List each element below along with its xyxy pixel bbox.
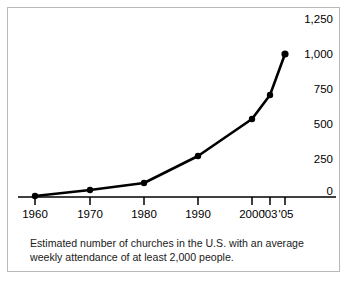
data-point-2003 bbox=[267, 92, 273, 98]
data-point-1970 bbox=[87, 187, 93, 193]
y-tick-label-0: 0 bbox=[289, 186, 333, 198]
x-tick-label-1990: 1990 bbox=[174, 209, 222, 221]
data-point-2000 bbox=[249, 116, 255, 122]
data-point-2005 bbox=[281, 50, 288, 57]
y-tick-label-750: 750 bbox=[289, 84, 333, 96]
data-point-markers bbox=[32, 50, 289, 199]
data-point-1960 bbox=[32, 193, 38, 199]
data-point-1980 bbox=[141, 180, 147, 186]
chart-caption: Estimated number of churches in the U.S.… bbox=[30, 236, 330, 264]
x-tick-label-2005: '05 bbox=[274, 209, 298, 221]
data-point-1990 bbox=[195, 153, 201, 159]
y-tick-label-1250: 1,250 bbox=[289, 14, 333, 26]
data-series-line bbox=[35, 54, 285, 196]
chart-figure: 1,250 1,000 750 500 250 0 1960 1970 1980… bbox=[0, 0, 351, 284]
x-tick-label-1970: 1970 bbox=[66, 209, 114, 221]
y-tick-label-1000: 1,000 bbox=[289, 49, 333, 61]
x-tick-label-1980: 1980 bbox=[120, 209, 168, 221]
plot-area: 1,250 1,000 750 500 250 0 1960 1970 1980… bbox=[0, 0, 351, 230]
x-tick-label-1960: 1960 bbox=[11, 209, 59, 221]
y-tick-label-250: 250 bbox=[289, 154, 333, 166]
x-axis-ticks bbox=[35, 197, 285, 205]
y-tick-label-500: 500 bbox=[289, 119, 333, 131]
